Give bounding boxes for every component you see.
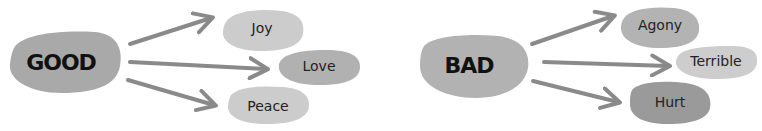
- terrible-label: Terrible: [689, 53, 741, 69]
- good-label: GOOD: [26, 50, 96, 75]
- love-label: Love: [302, 58, 335, 74]
- good-diagram: GOOD Joy Love Peace: [10, 10, 360, 124]
- bad-label: BAD: [444, 53, 494, 78]
- hurt-label: Hurt: [655, 94, 686, 110]
- arrow-good-peace: [128, 80, 214, 105]
- arrow-bad-terrible: [544, 62, 668, 66]
- arrow-bad-hurt: [533, 81, 618, 102]
- agony-label: Agony: [638, 17, 682, 33]
- peace-label: Peace: [247, 98, 288, 114]
- joy-label: Joy: [251, 20, 273, 36]
- arrow-good-love: [130, 62, 266, 69]
- arrow-bad-agony: [532, 16, 613, 44]
- bad-diagram: BAD Agony Terrible Hurt: [420, 7, 757, 124]
- arrow-good-joy: [130, 18, 211, 44]
- diagram-canvas: GOOD Joy Love Peace BAD Agony Terrible H…: [0, 0, 762, 131]
